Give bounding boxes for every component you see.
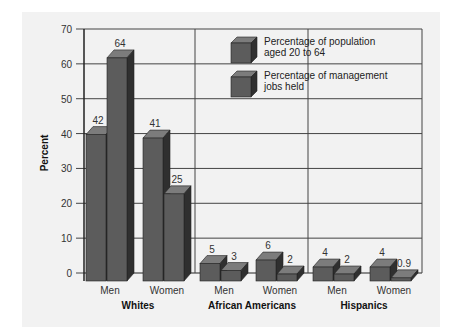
value-label: 2 <box>287 254 293 265</box>
bar-population <box>143 138 163 281</box>
bar-population <box>86 135 106 281</box>
value-label: 42 <box>92 115 104 126</box>
y-tick-label: 50 <box>61 94 73 105</box>
bar-management <box>221 271 241 281</box>
category-label: Women <box>377 285 411 296</box>
bar-management <box>334 274 354 281</box>
bar-management <box>277 274 297 281</box>
y-tick-label: 70 <box>61 24 73 35</box>
bar-chart: 010203040506070Percent4264Men4125Women53… <box>0 0 450 335</box>
category-label: Women <box>263 285 297 296</box>
y-tick-label: 10 <box>61 233 73 244</box>
bar-population <box>313 267 333 281</box>
value-label: 0.9 <box>397 258 411 269</box>
value-label: 2 <box>344 254 350 265</box>
legend-label: Percentage of population <box>264 36 375 47</box>
value-label: 64 <box>114 38 126 49</box>
bar-management-side <box>184 186 191 281</box>
bar-management <box>107 58 127 281</box>
category-label: Men <box>214 285 233 296</box>
y-tick-label: 20 <box>61 198 73 209</box>
value-label: 25 <box>171 174 183 185</box>
category-label: Men <box>100 285 119 296</box>
y-tick-label: 30 <box>61 163 73 174</box>
bar-management-side <box>127 50 134 281</box>
bar-population <box>256 260 276 281</box>
y-tick-label: 40 <box>61 129 73 140</box>
group-label: Whites <box>122 300 155 311</box>
legend-label: aged 20 to 64 <box>264 47 326 58</box>
legend-swatch <box>231 77 251 97</box>
value-label: 4 <box>322 247 328 258</box>
y-tick-label: 0 <box>66 268 72 279</box>
value-label: 5 <box>209 244 215 255</box>
group-label: African Americans <box>208 300 296 311</box>
y-axis-label: Percent <box>39 134 50 171</box>
bar-population <box>200 264 220 281</box>
legend-label: Percentage of management <box>264 70 388 81</box>
category-label: Women <box>150 285 184 296</box>
value-label: 41 <box>149 118 161 129</box>
value-label: 6 <box>265 240 271 251</box>
legend-label: jobs held <box>263 81 304 92</box>
bar-management <box>164 194 184 281</box>
legend-swatch <box>231 43 251 63</box>
bar-management <box>391 278 411 281</box>
value-label: 3 <box>231 251 237 262</box>
value-label: 4 <box>379 247 385 258</box>
category-label: Men <box>327 285 346 296</box>
bar-population <box>370 267 390 281</box>
y-tick-label: 60 <box>61 59 73 70</box>
group-label: Hispanics <box>340 300 388 311</box>
